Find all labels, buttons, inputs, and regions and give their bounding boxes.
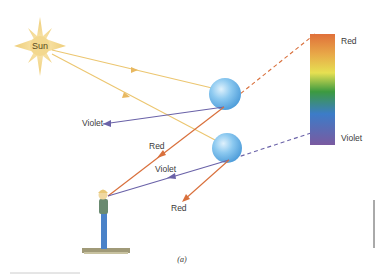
red-ray-lower [184,160,229,200]
spectrum-label-violet: Violet [341,133,363,143]
raindrop-upper [209,78,241,110]
spectrum-label-red: Red [341,36,357,46]
sunlight-rays [52,50,215,140]
label-red-middle: Red [149,141,165,151]
sun-label: Sun [32,41,48,51]
arrow-icon [103,120,111,127]
arrow-icon [131,67,138,73]
sun-icon: Sun [14,17,66,76]
label-violet-upper: Violet [82,118,104,128]
spectrum-bar [310,34,335,145]
label-violet-lower: Violet [155,164,177,174]
label-red-lower: Red [171,203,187,213]
figure-caption: (a) [177,255,187,264]
observer-figure [82,190,130,255]
rainbow-diagram: Sun Violet Red Violet Red Red Violet (a) [0,0,376,276]
raindrop-lower [212,133,242,163]
arrow-icon [157,150,166,158]
